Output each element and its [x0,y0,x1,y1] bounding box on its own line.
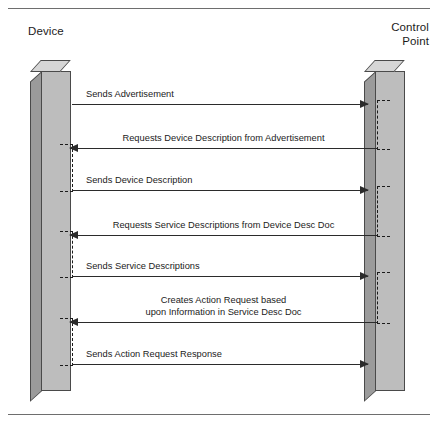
lifeline-control-point-side-face [364,71,376,402]
message-5-line [72,276,368,277]
figure-top-rule [8,8,430,9]
figure-bottom-rule [8,414,430,415]
actor-label-control-point: Control Point [391,20,429,48]
message-4-line [70,235,377,236]
message-1-line [72,104,368,105]
message-2-label: Requests Device Description from Adverti… [70,133,377,145]
sequence-diagram-figure: Device Control Point Sends Advertisement… [0,0,438,427]
message-6-label: Creates Action Request based upon Inform… [70,295,377,318]
message-1-arrowhead [360,100,369,108]
message-2-arrowhead [69,144,78,152]
message-2-line [70,148,377,149]
message-3-arrowhead [360,186,369,194]
message-7-label: Sends Action Request Response [86,349,222,361]
message-6-line [70,322,377,323]
message-4-arrowhead [69,231,78,239]
message-5-label: Sends Service Descriptions [86,261,200,273]
message-3-line [72,190,368,191]
message-6-arrowhead [69,318,78,326]
activation-control-point-1 [377,100,390,150]
activation-control-point-3 [377,272,390,324]
lifeline-device-side-face [30,71,42,402]
message-4-label: Requests Service Descriptions from Devic… [70,220,377,232]
activation-control-point-2 [377,186,390,237]
message-3-label: Sends Device Description [86,175,192,187]
message-5-arrowhead [360,272,369,280]
message-7-line [72,364,368,365]
lifeline-device [30,60,60,380]
message-1-label: Sends Advertisement [86,89,174,101]
message-7-arrowhead [360,360,369,368]
actor-label-device: Device [28,24,64,38]
